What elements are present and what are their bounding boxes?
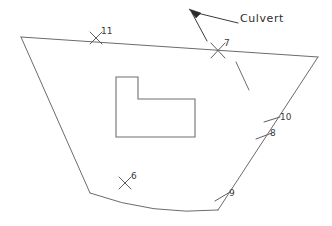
- point-label-8: 8: [270, 129, 276, 138]
- point-label-7: 7: [224, 39, 230, 48]
- culvert-annotation-label: Culvert: [240, 13, 284, 24]
- point-label-9: 9: [229, 189, 235, 198]
- parcel-boundary-fill: [21, 37, 318, 211]
- culvert-leader-lower: [192, 13, 207, 41]
- point-label-11: 11: [101, 27, 112, 36]
- point-label-6: 6: [131, 172, 137, 181]
- culvert-arrow-head-icon: [189, 9, 201, 18]
- survey-sketch-canvas: 11 7 10 8 9 6 Culvert: [0, 0, 332, 226]
- point-label-10: 10: [280, 113, 291, 122]
